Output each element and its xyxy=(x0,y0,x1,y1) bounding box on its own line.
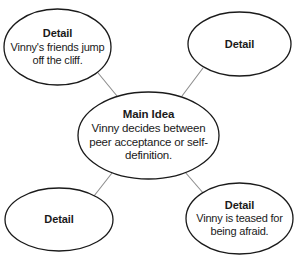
node-detail-top-left[interactable]: Detail Vinny's friends jump off the clif… xyxy=(4,9,111,85)
node-detail-bottom-left-title: Detail xyxy=(44,213,73,225)
node-main-idea-title: Main Idea xyxy=(123,108,175,121)
node-detail-top-right[interactable]: Detail xyxy=(188,12,291,76)
node-detail-bottom-right-title: Detail xyxy=(225,199,254,211)
node-main-idea-body: Vinny decides between peer acceptance or… xyxy=(82,122,215,163)
node-detail-bottom-left[interactable]: Detail xyxy=(5,188,113,251)
node-detail-top-left-body: Vinny's friends jump off the cliff. xyxy=(10,41,105,67)
node-detail-bottom-right-body: Vinny is teased for being afraid. xyxy=(190,212,289,238)
main-idea-web-diagram: Detail Vinny's friends jump off the clif… xyxy=(0,0,294,256)
node-main-idea[interactable]: Main Idea Vinny decides between peer acc… xyxy=(78,92,219,179)
node-detail-top-left-title: Detail xyxy=(43,27,72,39)
node-detail-top-right-title: Detail xyxy=(225,38,254,50)
node-detail-bottom-right[interactable]: Detail Vinny is teased for being afraid. xyxy=(186,183,293,254)
